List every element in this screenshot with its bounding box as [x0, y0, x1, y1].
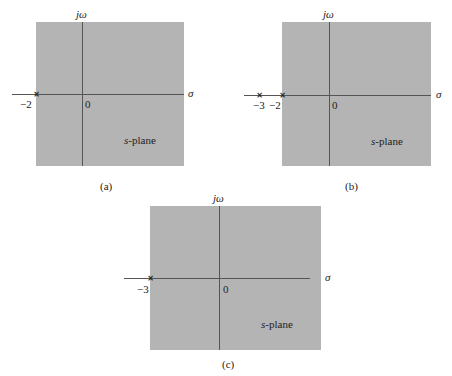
jw-axis-b: [329, 22, 330, 166]
pole-label-c-1: −3: [137, 284, 149, 295]
jw-label-c: jω: [213, 193, 224, 204]
caption-c: (c): [222, 359, 234, 370]
region-label-rest-b: -plane: [375, 135, 402, 147]
pole-marker-a-1: ×: [33, 91, 40, 98]
caption-a: (a): [100, 181, 112, 192]
pole-marker-b-1: ×: [256, 92, 263, 99]
jw-label-b: jω: [323, 9, 334, 20]
pole-marker-c-1: ×: [147, 275, 154, 282]
origin-label-a: 0: [85, 99, 91, 110]
sigma-label-b: σ: [436, 89, 441, 100]
region-label-rest-c: -plane: [265, 318, 292, 330]
jw-axis-c: [219, 206, 220, 350]
sigma-axis-b: [244, 95, 431, 96]
region-label-rest-a: -plane: [128, 134, 155, 146]
caption-b: (b): [345, 181, 358, 192]
pole-label-a-1: −2: [20, 99, 32, 110]
region-label-c: s-plane: [261, 319, 293, 330]
pole-label-b-2: −2: [269, 100, 281, 111]
origin-label-b: 0: [332, 100, 338, 111]
jw-axis-a: [82, 22, 83, 166]
pole-marker-b-2: ×: [279, 92, 286, 99]
jw-label-a: jω: [76, 9, 87, 20]
region-label-a: s-plane: [124, 135, 156, 146]
pole-label-b-1: −3: [253, 100, 265, 111]
origin-label-c: 0: [223, 284, 229, 295]
region-label-b: s-plane: [371, 136, 403, 147]
sigma-label-c: σ: [325, 272, 330, 283]
shaded-region-b: [282, 22, 431, 166]
sigma-label-a: σ: [188, 88, 193, 99]
